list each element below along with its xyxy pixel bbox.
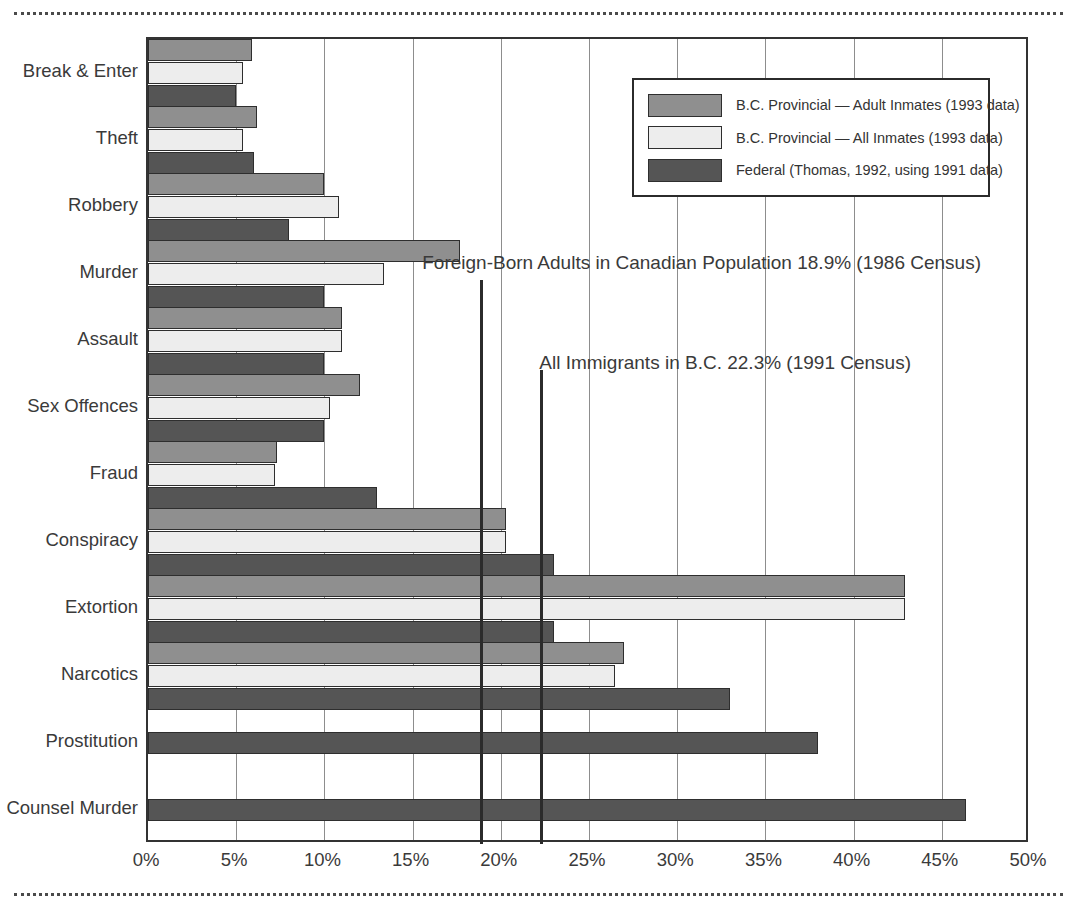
bar [148, 263, 384, 285]
bar [148, 106, 257, 128]
legend-item: Federal (Thomas, 1992, using 1991 data) [648, 157, 974, 183]
chart-legend: B.C. Provincial — Adult Inmates (1993 da… [632, 78, 990, 197]
x-tick-40: 40% [833, 849, 870, 871]
bar-group-fraud [148, 442, 1026, 509]
x-tick-35: 35% [745, 849, 782, 871]
legend-item: B.C. Provincial — Adult Inmates (1993 da… [648, 92, 974, 118]
y-tick-label: Assault [0, 330, 138, 349]
legend-swatch-all-inmates [648, 126, 722, 149]
legend-label-all-inmates: B.C. Provincial — All Inmates (1993 data… [736, 130, 1003, 146]
x-tick-45: 45% [921, 849, 958, 871]
y-tick-label: Conspiracy [0, 531, 138, 550]
bar-group-conspiracy [148, 509, 1026, 576]
bar [148, 152, 254, 174]
bar [148, 129, 243, 151]
legend-label-federal: Federal (Thomas, 1992, using 1991 data) [736, 162, 1003, 178]
y-tick-label: Theft [0, 129, 138, 148]
bar [148, 531, 506, 553]
bar [148, 665, 615, 687]
bar [148, 598, 905, 620]
bar-group-sex-offences [148, 374, 1026, 441]
y-tick-label: Murder [0, 263, 138, 282]
legend-swatch-adult-inmates [648, 94, 722, 117]
bar [148, 420, 324, 442]
y-tick-label: Break & Enter [0, 62, 138, 81]
x-tick-30: 30% [657, 849, 694, 871]
bar [148, 642, 624, 664]
x-tick-10: 10% [304, 849, 341, 871]
reference-line-caption: Foreign-Born Adults in Canadian Populati… [422, 252, 981, 274]
bar [148, 799, 966, 821]
y-tick-label: Counsel Murder [0, 799, 138, 818]
x-tick-15: 15% [392, 849, 429, 871]
bar [148, 487, 377, 509]
bar [148, 397, 330, 419]
x-tick-5: 5% [221, 849, 248, 871]
bar [148, 732, 818, 754]
bar-group-narcotics [148, 643, 1026, 710]
x-tick-25: 25% [568, 849, 605, 871]
bar [148, 307, 342, 329]
bar [148, 353, 324, 375]
bar [148, 688, 730, 710]
bar [148, 196, 339, 218]
y-tick-label: Extortion [0, 598, 138, 617]
bar-group-extortion [148, 576, 1026, 643]
y-tick-label: Narcotics [0, 665, 138, 684]
x-tick-20: 20% [480, 849, 517, 871]
top-dotted-rule [14, 12, 1063, 15]
bar [148, 219, 289, 241]
legend-swatch-federal [648, 159, 722, 182]
y-tick-label: Prostitution [0, 732, 138, 751]
bar [148, 62, 243, 84]
reference-line-18.9 [480, 280, 483, 844]
x-tick-0: 0% [133, 849, 160, 871]
bar [148, 374, 360, 396]
legend-item: B.C. Provincial — All Inmates (1993 data… [648, 125, 974, 151]
reference-line-caption: All Immigrants in B.C. 22.3% (1991 Censu… [539, 352, 911, 374]
bar [148, 330, 342, 352]
bar [148, 508, 506, 530]
bar [148, 286, 324, 308]
x-tick-50: 50% [1009, 849, 1046, 871]
bar [148, 575, 905, 597]
bottom-dotted-rule [14, 893, 1063, 896]
y-tick-label: Robbery [0, 196, 138, 215]
bar [148, 85, 236, 107]
bar [148, 39, 252, 61]
bar-group-counsel-murder [148, 777, 1026, 844]
x-axis-tick-labels: 0%5%10%15%20%25%30%35%40%45%50% [0, 849, 1077, 879]
y-tick-label: Sex Offences [0, 397, 138, 416]
bar [148, 240, 460, 262]
y-tick-label: Fraud [0, 464, 138, 483]
reference-line-22.3 [540, 370, 543, 844]
bar [148, 621, 554, 643]
legend-label-adult-inmates: B.C. Provincial — Adult Inmates (1993 da… [736, 97, 1020, 113]
bar [148, 554, 554, 576]
y-axis-category-labels: Break & EnterTheftRobberyMurderAssaultSe… [0, 37, 138, 842]
bar [148, 464, 275, 486]
bar [148, 441, 277, 463]
bar-group-prostitution [148, 710, 1026, 777]
bar [148, 173, 324, 195]
